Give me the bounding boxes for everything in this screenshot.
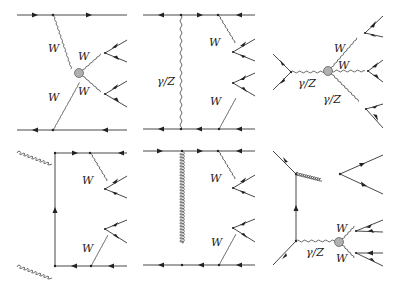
- label-w: W: [82, 174, 95, 187]
- label-w: W: [48, 91, 61, 104]
- label-w: W: [210, 95, 223, 108]
- diagram-4: W W: [17, 151, 127, 280]
- label-w: W: [82, 242, 95, 255]
- feynman-diagram-figure: W W W W γ/Z W W: [0, 0, 400, 281]
- diagram-6: W W γ/Z: [273, 151, 383, 266]
- label-w: W: [78, 85, 91, 98]
- label-gamma-z: γ/Z: [323, 93, 341, 106]
- label-gamma-z: γ/Z: [298, 77, 316, 90]
- diagram-3: W W γ/Z γ/Z: [273, 16, 383, 128]
- label-gamma-z: γ/Z: [306, 246, 324, 259]
- label-w: W: [336, 222, 349, 235]
- label-w: W: [48, 42, 61, 55]
- label-w: W: [209, 36, 222, 49]
- diagram-2: γ/Z W W: [143, 13, 255, 132]
- diagram-1: W W W W: [17, 13, 127, 133]
- label-gamma-z: γ/Z: [157, 75, 175, 88]
- label-w: W: [334, 42, 347, 55]
- label-w: W: [211, 236, 224, 249]
- label-w: W: [78, 50, 91, 63]
- gluon-line: [180, 151, 185, 243]
- label-w: W: [210, 172, 223, 185]
- label-w: W: [338, 59, 351, 72]
- label-w: W: [336, 252, 349, 265]
- diagram-5: W W: [143, 149, 255, 268]
